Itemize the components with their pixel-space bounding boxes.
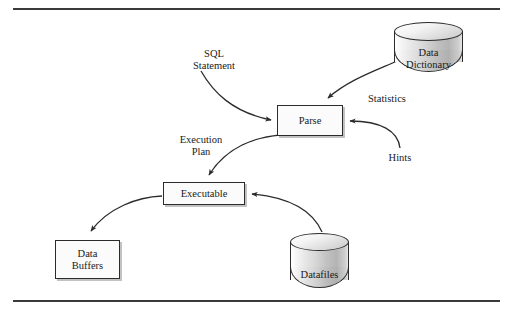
node-data-buffers-label-line1: Data <box>78 248 98 260</box>
node-data-dictionary-label-line1: Data <box>394 47 463 59</box>
edge-label-sql-statement: SQL Statement <box>185 48 243 72</box>
edge-sql-statement-to-parse <box>201 71 271 120</box>
edge-executable-to-data-buffers <box>91 196 162 231</box>
node-executable-label: Executable <box>181 188 228 200</box>
edge-label-execution-plan-line2: Plan <box>170 146 232 158</box>
edge-label-execution-plan: Execution Plan <box>170 134 232 158</box>
cylinder-top-cap <box>290 233 349 251</box>
node-parse[interactable]: Parse <box>277 105 343 136</box>
node-parse-label: Parse <box>299 115 322 127</box>
edge-label-statistics: Statistics <box>358 93 416 105</box>
edge-label-hints-line1: Hints <box>380 152 420 164</box>
node-datafiles-label-line1: Datafiles <box>290 269 349 281</box>
cylinder-top-cap <box>394 22 463 41</box>
edge-label-statistics-line1: Statistics <box>358 93 416 105</box>
edge-label-sql-statement-line1: SQL <box>185 48 243 60</box>
node-data-dictionary[interactable]: Data Dictionary <box>394 22 463 73</box>
node-data-dictionary-label-line2: Dictionary <box>394 59 463 71</box>
edge-datafiles-to-executable <box>252 194 322 232</box>
node-datafiles[interactable]: Datafiles <box>290 233 349 289</box>
figure-canvas: Parse Executable Data Buffers Data Dicti… <box>0 0 515 311</box>
edge-hints-to-parse <box>350 121 400 148</box>
node-data-dictionary-label: Data Dictionary <box>394 47 463 71</box>
edge-label-execution-plan-line1: Execution <box>170 134 232 146</box>
node-data-buffers-label-line2: Buffers <box>72 260 103 272</box>
edge-label-hints: Hints <box>380 152 420 164</box>
node-data-buffers[interactable]: Data Buffers <box>55 240 120 279</box>
node-datafiles-label: Datafiles <box>290 269 349 281</box>
node-executable[interactable]: Executable <box>163 182 245 205</box>
edge-label-sql-statement-line2: Statement <box>185 60 243 72</box>
